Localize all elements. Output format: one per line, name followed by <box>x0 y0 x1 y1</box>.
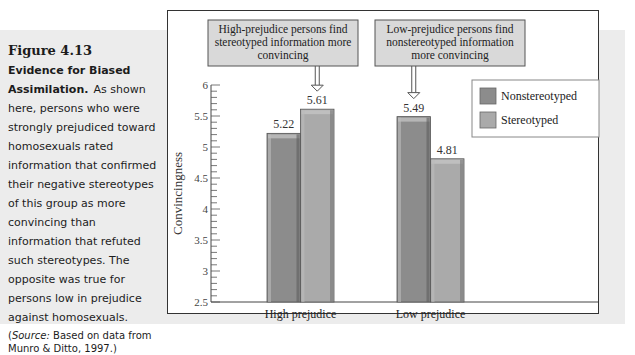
bar-value-label: 5.61 <box>307 93 328 107</box>
bar-bevel-side <box>297 134 300 302</box>
y-tick-label: 3 <box>203 265 209 277</box>
bar-stereotyped-high-prejudice <box>301 109 335 302</box>
legend-label-nonstereotyped: Nonstereotyped <box>501 89 577 103</box>
y-axis-label: Convincingness <box>170 152 185 235</box>
bar-nonstereotyped-low-prejudice <box>397 117 431 302</box>
y-tick-label: 5 <box>203 141 209 153</box>
bar-bevel-top <box>302 110 334 114</box>
annotation-text: stereotyped information more <box>215 36 352 49</box>
bar-value-label: 4.81 <box>437 143 458 157</box>
legend-label-stereotyped: Stereotyped <box>501 113 558 127</box>
bar-bevel-top <box>268 134 300 138</box>
y-tick-label: 3.5 <box>194 234 208 246</box>
bar-bevel-top <box>432 160 464 164</box>
y-tick-label: 4 <box>203 203 209 215</box>
bar-value-label: 5.22 <box>273 117 294 131</box>
y-tick-label: 5.5 <box>194 110 208 122</box>
bar-value-label: 5.49 <box>403 101 424 115</box>
bar-bevel-top <box>398 118 430 122</box>
bar-bevel-left <box>432 160 435 302</box>
y-tick-label: 4.5 <box>194 172 208 184</box>
x-category-label: Low prejudice <box>396 307 466 321</box>
bar-bevel-side <box>460 160 463 302</box>
legend-swatch-stereotyped <box>480 112 496 128</box>
annotation-text: High-prejudice persons find <box>218 23 347 36</box>
annotation-text: nonstereotyped information <box>386 36 514 49</box>
bar-bevel-left <box>268 134 271 302</box>
annotation-arrow-head <box>311 85 323 91</box>
y-tick-label: 6 <box>203 79 209 91</box>
x-category-label: High prejudice <box>265 307 337 321</box>
annotation-text: more convincing <box>411 49 489 62</box>
bar-bevel-side <box>427 118 430 302</box>
bar-bevel-left <box>398 118 401 302</box>
bar-nonstereotyped-high-prejudice <box>267 133 301 302</box>
bar-stereotyped-low-prejudice <box>431 159 465 302</box>
annotation-arrow-head <box>408 93 420 99</box>
bar-bevel-side <box>330 110 333 302</box>
annotation-text: Low-prejudice persons find <box>386 23 513 36</box>
bar-bevel-left <box>302 110 305 302</box>
y-tick-label: 2.5 <box>194 296 208 308</box>
annotation-text: convincing <box>257 49 308 62</box>
legend-swatch-nonstereotyped <box>480 88 496 104</box>
